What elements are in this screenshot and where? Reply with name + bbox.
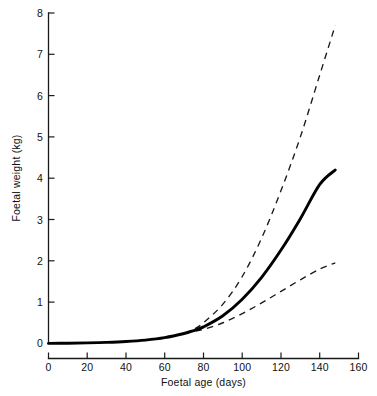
y-tick-label: 3 [37,214,43,226]
y-tick-label: 1 [37,296,43,308]
x-tick-label: 120 [272,361,290,373]
y-axis-label: Foetal weight (kg) [10,134,22,221]
x-axis-label: Foetal age (days) [161,376,246,388]
series-mean-foetal-weight [49,170,336,343]
x-tick-label: 20 [81,361,93,373]
foetal-growth-chart: 8 7 6 5 4 3 2 1 0 Foetal weight (kg) [0,0,377,396]
y-tick-label: 2 [37,255,43,267]
series-upper-bound [184,25,335,333]
y-tick-label: 5 [37,131,43,143]
chart-figure: 8 7 6 5 4 3 2 1 0 Foetal weight (kg) [0,0,377,396]
x-tick-label: 100 [233,361,251,373]
y-tick-label: 0 [37,337,43,349]
x-tick-label: 40 [120,361,132,373]
y-tick-label: 8 [37,7,43,19]
x-tick-label: 80 [198,361,210,373]
x-tick-label: 60 [159,361,171,373]
x-tick-label: 160 [350,361,368,373]
x-tick-label: 140 [311,361,329,373]
y-tick-labels: 8 7 6 5 4 3 2 1 0 [37,7,43,349]
y-axis-ticks [49,13,55,343]
y-tick-label: 4 [37,172,43,184]
y-tick-label: 7 [37,48,43,60]
data-curves [49,25,336,343]
y-tick-label: 6 [37,90,43,102]
x-tick-label: 0 [46,361,52,373]
series-lower-bound [184,263,335,334]
x-axis-ticks [49,353,359,359]
x-tick-labels: 0 20 40 60 80 100 120 140 160 [46,361,368,373]
